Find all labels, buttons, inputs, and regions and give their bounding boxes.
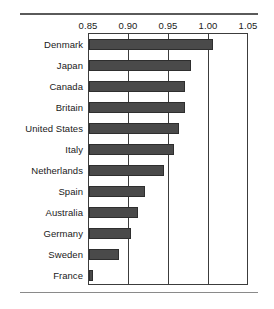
bar-canada bbox=[89, 81, 185, 92]
chart-rows: DenmarkJapanCanadaBritainUnited StatesIt… bbox=[0, 0, 274, 309]
category-label-sweden: Sweden bbox=[0, 244, 83, 265]
category-label-italy: Italy bbox=[0, 139, 83, 160]
category-label-united-states: United States bbox=[0, 118, 83, 139]
category-label-japan: Japan bbox=[0, 55, 83, 76]
chart-row: Spain bbox=[0, 181, 274, 202]
category-label-netherlands: Netherlands bbox=[0, 160, 83, 181]
chart-row: Netherlands bbox=[0, 160, 274, 181]
category-label-spain: Spain bbox=[0, 181, 83, 202]
chart-row: Germany bbox=[0, 223, 274, 244]
chart-row: Canada bbox=[0, 76, 274, 97]
bar-britain bbox=[89, 102, 185, 113]
chart-row: France bbox=[0, 265, 274, 286]
bar-germany bbox=[89, 228, 131, 239]
bottom-horizontal-rule bbox=[20, 292, 258, 293]
chart-row: Australia bbox=[0, 202, 274, 223]
bar-france bbox=[89, 270, 93, 281]
chart-row: United States bbox=[0, 118, 274, 139]
bar-australia bbox=[89, 207, 138, 218]
bar-united-states bbox=[89, 123, 179, 134]
bar-netherlands bbox=[89, 165, 164, 176]
category-label-britain: Britain bbox=[0, 97, 83, 118]
category-label-canada: Canada bbox=[0, 76, 83, 97]
chart-row: Denmark bbox=[0, 34, 274, 55]
category-label-denmark: Denmark bbox=[0, 34, 83, 55]
bar-denmark bbox=[89, 39, 213, 50]
category-label-germany: Germany bbox=[0, 223, 83, 244]
bar-japan bbox=[89, 60, 191, 71]
category-label-australia: Australia bbox=[0, 202, 83, 223]
chart-row: Japan bbox=[0, 55, 274, 76]
category-label-france: France bbox=[0, 265, 83, 286]
chart-row: Britain bbox=[0, 97, 274, 118]
bar-spain bbox=[89, 186, 145, 197]
bar-sweden bbox=[89, 249, 119, 260]
chart-row: Sweden bbox=[0, 244, 274, 265]
bar-chart-figure: 0.850.900.951.001.05 DenmarkJapanCanadaB… bbox=[0, 0, 274, 309]
chart-row: Italy bbox=[0, 139, 274, 160]
bar-italy bbox=[89, 144, 174, 155]
